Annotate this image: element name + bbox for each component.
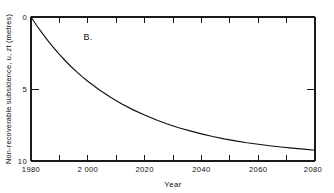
panel-letter-annotation: B.: [83, 32, 92, 42]
x-axis-title: Year: [164, 180, 181, 189]
x-tick-label-2060: 2060: [249, 165, 267, 174]
subsidence-curve: [31, 17, 315, 150]
x-tick-label-2040: 2040: [192, 165, 210, 174]
x-tick-label-2020: 2020: [135, 165, 153, 174]
y-tick-label-5: 5: [22, 85, 27, 94]
x-ticks-bottom: [59, 155, 286, 161]
y-axis-title: Non-recoverable subsidence, u, zt (metre…: [4, 14, 13, 164]
figure-panel-b: 1980 2 000 2020 2040 2060 2080 0 5 10 Ye…: [0, 0, 334, 193]
y-tick-label-0: 0: [22, 13, 27, 22]
x-tick-label-2080: 2080: [304, 165, 322, 174]
x-ticks-top: [59, 17, 286, 23]
x-tick-label-2000: 2 000: [77, 165, 98, 174]
chart-canvas: 1980 2 000 2020 2040 2060 2080 0 5 10 Ye…: [0, 0, 334, 193]
axes-frame: [31, 17, 315, 161]
x-tick-label-1980: 1980: [22, 165, 40, 174]
y-tick-label-10: 10: [18, 157, 27, 166]
